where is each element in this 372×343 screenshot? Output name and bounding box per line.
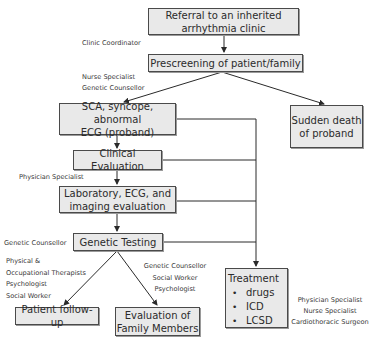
node-family-line-2: Family Members: [117, 322, 199, 335]
role-line: Social Worker: [6, 291, 86, 303]
node-clinical-evaluation: Clinical Evaluation: [73, 150, 162, 170]
node-clinical-label: Clinical Evaluation: [74, 147, 161, 173]
node-referral-line-2: arrhythmia clinic: [181, 22, 265, 35]
treatment-item: ICD: [232, 300, 274, 314]
role-treatment-staff: Physician Specialist Nurse Specialist Ca…: [290, 295, 370, 328]
role-line: Genetic Counsellor: [143, 261, 207, 273]
arrow-prescreening-sudden-death: [222, 72, 324, 104]
node-family-evaluation: Evaluation of Family Members: [115, 307, 200, 336]
role-line: Occupational Therapists: [6, 268, 86, 280]
role-line: Physician Specialist: [290, 295, 370, 306]
node-sca: SCA, syncope, abnormal ECG (proband): [59, 103, 176, 135]
role-physician: Physician Specialist: [19, 172, 84, 182]
node-patient-followup-label: Patient follow-up: [16, 303, 98, 329]
node-treatment-title: Treatment: [226, 272, 281, 285]
role-line: Physical &: [6, 256, 86, 268]
role-line: Cardiothoracic Surgeon: [290, 317, 370, 328]
role-line: Nurse Specialist: [82, 72, 144, 83]
role-line: Nurse Specialist: [290, 306, 370, 317]
role-line: Genetic Counsellor: [82, 83, 144, 94]
role-prescreen-staff: Nurse Specialist Genetic Counsellor: [82, 72, 144, 94]
node-sca-line-1: SCA, syncope, abnormal: [60, 100, 175, 126]
role-family-staff: Genetic Counsellor Social Worker Psychol…: [143, 261, 207, 296]
role-line: Clinic Coordinator: [82, 38, 141, 48]
node-patient-followup: Patient follow-up: [15, 307, 99, 325]
role-clinic-coordinator: Clinic Coordinator: [82, 38, 141, 48]
node-laboratory-line-1: Laboratory, ECG, and: [64, 187, 171, 200]
role-line: Genetic Counsellor: [4, 238, 66, 248]
node-sudden-death-line-1: Sudden death: [292, 114, 362, 127]
node-genetic-testing-label: Genetic Testing: [80, 236, 157, 249]
role-followup-staff: Physical & Occupational Therapists Psych…: [6, 256, 86, 302]
node-sudden-death-line-2: of proband: [299, 127, 353, 140]
treatment-item: drugs: [232, 286, 274, 300]
node-treatment: Treatment drugs ICD LCSD: [225, 268, 288, 328]
node-prescreening: Prescreening of patient/family: [148, 54, 303, 72]
node-laboratory-line-2: imaging evaluation: [69, 200, 165, 213]
treatment-item: LCSD: [232, 314, 274, 328]
node-genetic-testing: Genetic Testing: [73, 233, 163, 251]
node-sca-line-2: ECG (proband): [81, 126, 155, 139]
node-laboratory: Laboratory, ECG, and imaging evaluation: [59, 186, 176, 213]
treatment-list: drugs ICD LCSD: [232, 286, 274, 328]
role-line: Social Worker: [143, 273, 207, 285]
role-genetic-counsellor: Genetic Counsellor: [4, 238, 66, 248]
node-family-line-1: Evaluation of: [125, 309, 191, 322]
node-sudden-death: Sudden death of proband: [290, 105, 363, 148]
role-line: Psychologist: [143, 284, 207, 296]
node-prescreening-label: Prescreening of patient/family: [150, 57, 300, 70]
role-line: Psychologist: [6, 279, 86, 291]
role-line: Physician Specialist: [19, 172, 84, 182]
node-referral: Referral to an inherited arrhythmia clin…: [148, 8, 299, 35]
node-referral-line-1: Referral to an inherited: [165, 9, 281, 22]
